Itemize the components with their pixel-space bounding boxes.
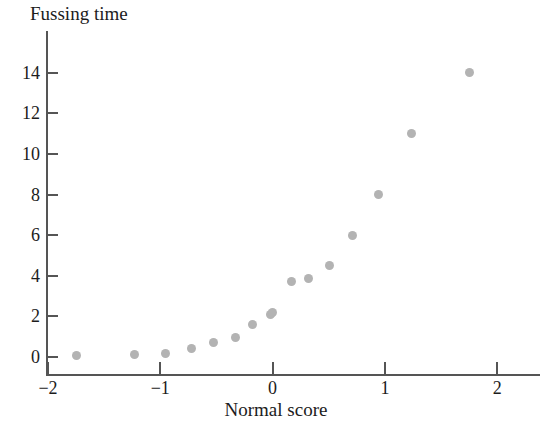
x-tick-mark [272,362,274,375]
data-point [374,190,383,199]
data-point [304,274,313,283]
plot-area: 02468101214 −2−1012 [0,0,540,429]
y-tick-mark [48,275,58,277]
data-point [287,277,296,286]
y-tick-label: 2 [6,307,40,325]
data-point [209,338,218,347]
x-tick-mark [159,362,161,375]
y-tick-label: 4 [6,267,40,285]
scatter-plot-figure: Fussing time 02468101214 −2−1012 Normal … [0,0,540,429]
x-tick-label: 0 [253,378,293,398]
y-tick-label: 0 [6,348,40,366]
x-tick-mark [47,362,49,375]
y-tick-label-wrap: 4 [0,267,40,285]
y-tick-label-wrap: 10 [0,145,40,163]
y-tick-mark [48,356,58,358]
y-tick-label-wrap: 8 [0,186,40,204]
y-tick-mark [48,234,58,236]
data-point [161,349,170,358]
y-axis-line [46,31,48,376]
y-tick-label: 8 [6,186,40,204]
data-point [72,351,81,360]
data-point [268,308,277,317]
data-point [325,261,334,270]
y-tick-label: 10 [6,145,40,163]
data-point [348,231,357,240]
data-point [231,333,240,342]
data-point [248,320,257,329]
y-tick-label-wrap: 0 [0,348,40,366]
y-tick-mark [48,194,58,196]
data-point [187,344,196,353]
y-tick-mark [48,153,58,155]
x-tick-label: 2 [477,378,517,398]
data-point [130,350,139,359]
data-point [465,68,474,77]
x-tick-label: 1 [365,378,405,398]
x-tick-label: −1 [140,378,180,398]
y-tick-mark [48,112,58,114]
y-tick-label-wrap: 2 [0,307,40,325]
x-tick-mark [496,362,498,375]
x-axis-line [46,374,540,376]
data-point [407,129,416,138]
y-tick-label-wrap: 14 [0,64,40,82]
y-tick-label: 12 [6,104,40,122]
x-tick-mark [384,362,386,375]
y-tick-label: 14 [6,64,40,82]
x-tick-label: −2 [28,378,68,398]
x-axis-title: Normal score [0,398,540,422]
y-tick-label-wrap: 12 [0,104,40,122]
y-tick-label: 6 [6,226,40,244]
y-tick-label-wrap: 6 [0,226,40,244]
y-tick-mark [48,72,58,74]
y-tick-mark [48,315,58,317]
